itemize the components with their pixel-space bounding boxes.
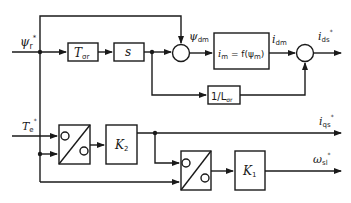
i-qs-label: iqs* [319, 113, 334, 129]
psi-dm-label: ψdm [189, 30, 209, 44]
summing-junction-1 [173, 45, 190, 62]
derivative-s-block: s [114, 43, 144, 61]
summing-junction-2 [297, 45, 314, 62]
k1-gain-block: K1 [235, 151, 265, 190]
branch-to-divider-2 [155, 133, 179, 163]
block-diagram: ψr* Tσr s ψdm im = f(ψm) idm ids* [0, 0, 351, 203]
flux-bypass-line [40, 16, 181, 52]
divider-block-2 [181, 151, 211, 190]
flux-reference-input: ψr* [12, 34, 66, 52]
torque-reference-input: Te* [12, 117, 57, 136]
divider-block-1 [59, 125, 90, 164]
i-ds-label: ids* [318, 28, 333, 44]
svg-text:ψr*: ψr* [20, 34, 37, 51]
k2-gain-block: K2 [106, 125, 137, 164]
t-sigma-block: Tσr [68, 43, 98, 61]
inverse-l-sigma-block: 1/Lσr [208, 86, 240, 104]
omega-sl-label: ωsl* [313, 151, 331, 167]
svg-text:s: s [125, 45, 131, 59]
svg-text:Te*: Te* [22, 117, 37, 134]
i-dm-label: idm [272, 33, 287, 47]
magnetizing-function-block: im = f(ψm) [214, 33, 269, 69]
